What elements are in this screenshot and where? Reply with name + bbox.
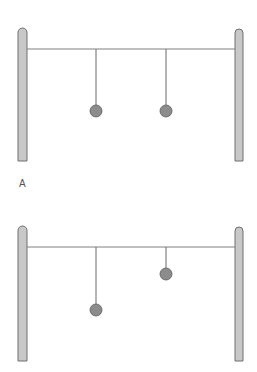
pendulum-bob (160, 105, 172, 117)
pendulum-2 (160, 49, 172, 117)
figure-a (18, 28, 243, 161)
left-post (18, 226, 27, 361)
figure-label-a: A (19, 178, 26, 189)
pendulum-bob (90, 304, 102, 316)
pendulum-diagram-canvas: A (0, 0, 257, 372)
pendulum-scene (0, 0, 257, 372)
pendulum-2 (160, 247, 172, 280)
figure-b (18, 226, 243, 361)
pendulum-1 (90, 247, 102, 316)
right-post (235, 29, 243, 161)
pendulum-bob (160, 268, 172, 280)
pendulum-1 (90, 49, 102, 117)
pendulum-bob (90, 105, 102, 117)
right-post (235, 227, 243, 361)
left-post (18, 28, 27, 161)
